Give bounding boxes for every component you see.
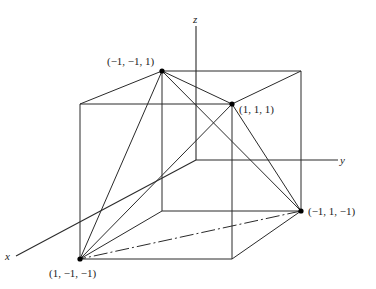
cube-edge-bottom-left-depth bbox=[80, 211, 162, 259]
vertex-v2 bbox=[229, 101, 234, 106]
x-axis bbox=[16, 160, 196, 256]
tetra-edge-v1-v2 bbox=[162, 71, 232, 104]
y-axis-label: y bbox=[339, 154, 345, 166]
vertex-v1 bbox=[159, 68, 164, 73]
vertex-label-v2: (1, 1, 1) bbox=[239, 103, 274, 116]
cube-edge-top-right-depth bbox=[232, 71, 301, 104]
vertex-label-v3: (−1, 1, −1) bbox=[308, 205, 356, 218]
tetra-edge-v2-v3 bbox=[232, 104, 301, 211]
vertex-label-v4: (1, −1, −1) bbox=[49, 267, 97, 280]
x-axis-label: x bbox=[4, 250, 10, 262]
vertex-v4 bbox=[77, 256, 82, 261]
vertex-v3 bbox=[298, 208, 303, 213]
vertex-label-v1: (−1, −1, 1) bbox=[107, 55, 155, 68]
tetra-edge-v3-v4 bbox=[80, 211, 301, 259]
tetra-edge-v2-v4 bbox=[80, 104, 232, 259]
z-axis-label: z bbox=[192, 13, 198, 25]
cube-tetrahedron-diagram: (−1, −1, 1) (1, 1, 1) (−1, 1, −1) (1, −1… bbox=[0, 0, 376, 289]
